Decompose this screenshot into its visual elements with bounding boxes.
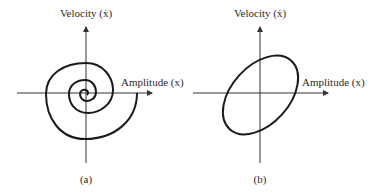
caption-a: (a): [80, 173, 93, 186]
caption-b: (b): [254, 173, 267, 186]
phase-plane-figure: Velocity (ẋ) Amplitude (x) (a) Velocity …: [0, 0, 382, 193]
panel-b: Velocity (ẋ) Amplitude (x) (b): [193, 7, 365, 186]
y-axis-label-a: Velocity (ẋ): [60, 7, 113, 20]
spiral-trajectory: [46, 63, 137, 139]
y-axis-label-b: Velocity (ẋ): [234, 7, 287, 20]
x-axis-label-a: Amplitude (x): [121, 76, 184, 89]
x-axis-label-b: Amplitude (x): [302, 76, 365, 89]
panel-a: Velocity (ẋ) Amplitude (x) (a): [17, 7, 184, 186]
